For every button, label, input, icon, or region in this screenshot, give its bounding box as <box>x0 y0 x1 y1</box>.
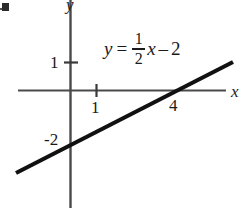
fraction-numerator: 1 <box>133 31 145 48</box>
y-axis-tick-label-neg2: -2 <box>44 131 58 148</box>
equation-minus-sign: – <box>156 38 172 59</box>
y-axis-label: y <box>66 0 74 13</box>
equation-equals-sign: = <box>115 38 131 60</box>
x-axis-tick-label-1: 1 <box>91 99 100 116</box>
graph-figure: 1 1 4 -2 x y y = 1 2 x–2 <box>0 0 249 208</box>
equation-fraction: 1 2 <box>132 31 145 67</box>
plotted-line <box>16 62 233 173</box>
equation-lhs: y <box>104 38 115 60</box>
equation-variable: x <box>147 38 155 59</box>
equation-constant: 2 <box>171 38 181 59</box>
equation-annotation: y = 1 2 x–2 <box>104 31 181 67</box>
fraction-denominator: 2 <box>133 50 145 67</box>
y-axis-tick-label-1: 1 <box>50 54 59 71</box>
equation-tail: x–2 <box>146 38 180 60</box>
x-axis-label: x <box>231 83 239 100</box>
x-axis-tick-label-4: 4 <box>169 97 178 114</box>
